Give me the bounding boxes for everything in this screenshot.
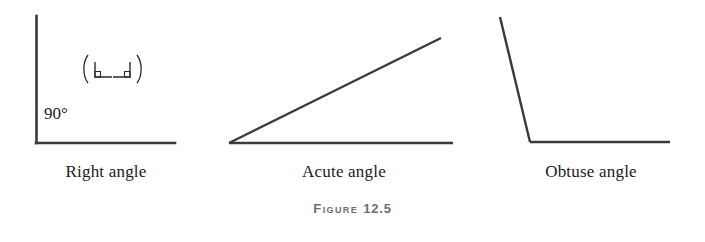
figure-illustration: 90° Right angle Acute angle Obtuse angle… <box>0 0 705 242</box>
right-angle-caption: Right angle <box>0 163 212 180</box>
right-angle-square-right-icon <box>125 72 131 78</box>
obtuse-angle-group <box>500 17 670 142</box>
right-angle-mark-left-icon <box>95 62 112 77</box>
acute-angle-diagonal-ray <box>229 38 441 143</box>
right-angle-square-left-icon <box>95 72 101 78</box>
right-angle-group <box>36 16 175 143</box>
right-angle-measure-label: 90° <box>44 105 68 122</box>
right-angle-mark-right-icon <box>113 62 130 77</box>
acute-angle-caption: Acute angle <box>228 163 460 180</box>
right-angle-bracket-symbol <box>84 55 141 83</box>
left-parenthesis-icon <box>84 55 88 83</box>
figure-caption-number: 12.5 <box>363 201 392 216</box>
figure-caption-word: Figure <box>313 201 358 216</box>
obtuse-angle-caption: Obtuse angle <box>480 163 702 180</box>
acute-angle-group <box>229 38 453 143</box>
figure-caption: Figure12.5 <box>0 201 705 216</box>
right-parenthesis-icon <box>137 55 141 83</box>
obtuse-angle-diagonal-ray <box>500 17 530 142</box>
